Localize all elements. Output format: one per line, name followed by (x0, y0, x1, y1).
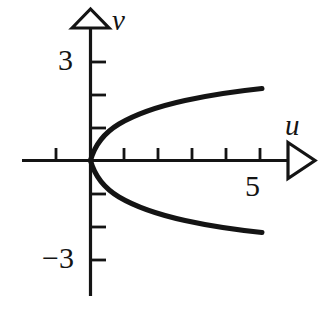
v-axis-tick-label-minus-3: −3 (42, 243, 74, 273)
figure-container: v u 3 −3 5 (0, 0, 324, 319)
parabola-upper-branch (91, 89, 263, 161)
v-axis-arrowhead-icon (72, 9, 109, 28)
u-axis-label: u (285, 111, 300, 140)
v-axis-tick-label-3: 3 (58, 45, 73, 75)
u-axis-tick-label-5: 5 (245, 171, 260, 201)
u-axis-group (22, 143, 315, 179)
parabola-lower-branch (91, 161, 263, 233)
v-axis-group (72, 9, 109, 296)
u-axis-arrowhead-icon (288, 143, 315, 179)
u-axis-ticks (56, 148, 260, 161)
v-axis-label: v (112, 6, 125, 35)
